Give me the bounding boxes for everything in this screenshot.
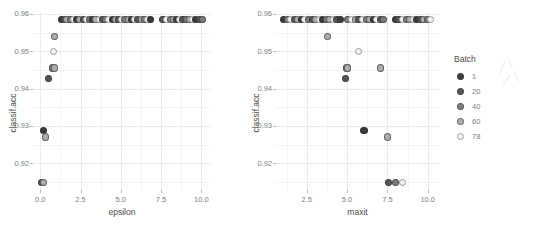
facet-maxit: classif.acc 0.920.930.940.950.96 2.55.07…	[243, 0, 443, 233]
legend-title: Batch	[454, 54, 532, 64]
y-tick-label: 0.95	[0, 47, 29, 56]
data-point	[199, 16, 206, 23]
y-tick-mark	[30, 126, 33, 127]
legend-key-dot-icon	[452, 73, 469, 80]
x-axis-title-left: epsilon	[33, 207, 211, 217]
data-point	[51, 33, 58, 40]
y-tick-mark	[30, 89, 33, 90]
gridline-minor-horizontal	[276, 107, 439, 108]
y-tick-label: 0.93	[242, 121, 272, 130]
x-tick-label: 2.5	[292, 195, 322, 204]
y-tick-mark	[273, 89, 276, 90]
gridline-major-horizontal	[33, 163, 211, 164]
y-tick-label: 0.96	[0, 9, 29, 18]
gridline-major-vertical	[81, 12, 82, 190]
y-axis-title-right: classif.acc	[245, 0, 261, 233]
y-tick-mark	[273, 163, 276, 164]
y-tick-mark	[30, 163, 33, 164]
gridline-major-vertical	[428, 12, 429, 190]
data-point	[344, 64, 351, 71]
legend-items: 120406078	[452, 69, 532, 144]
data-point	[324, 33, 331, 40]
y-tick-label: 0.94	[0, 84, 29, 93]
x-tick-mark	[307, 190, 308, 193]
gridline-major-horizontal	[276, 126, 439, 127]
data-point	[40, 179, 47, 186]
legend-item-60[interactable]: 60	[452, 114, 532, 129]
plot-panel-maxit	[276, 12, 439, 190]
data-point	[342, 75, 349, 82]
legend-batch: Batch 120406078	[452, 54, 532, 144]
x-tick-label: 0.0	[25, 195, 55, 204]
legend-item-1[interactable]: 1	[452, 69, 532, 84]
gridline-major-horizontal	[33, 14, 211, 15]
gridline-major-horizontal	[33, 51, 211, 52]
gridline-major-horizontal	[276, 163, 439, 164]
legend-key-dot-icon	[452, 88, 469, 95]
legend-label: 20	[472, 87, 480, 96]
y-tick-label: 0.96	[242, 9, 272, 18]
legend-key-dot-icon	[452, 103, 469, 110]
x-tick-mark	[201, 190, 202, 193]
legend-label: 78	[472, 132, 480, 141]
data-point	[50, 48, 57, 55]
x-tick-label: 10.0	[413, 195, 443, 204]
gridline-minor-horizontal	[276, 70, 439, 71]
legend-label: 40	[472, 102, 480, 111]
x-tick-label: 7.5	[372, 195, 402, 204]
x-tick-label: 5.0	[106, 195, 136, 204]
gridline-minor-horizontal	[276, 182, 439, 183]
x-tick-mark	[161, 190, 162, 193]
y-tick-mark	[273, 14, 276, 15]
data-point	[42, 133, 49, 140]
y-tick-label: 0.95	[242, 47, 272, 56]
y-tick-label: 0.93	[0, 121, 29, 130]
x-tick-mark	[40, 190, 41, 193]
legend-item-40[interactable]: 40	[452, 99, 532, 114]
gridline-major-vertical	[387, 12, 388, 190]
x-tick-label: 5.0	[332, 195, 362, 204]
data-point	[45, 75, 52, 82]
figure-root: classif.acc 0.920.930.940.950.96 0.02.55…	[0, 0, 533, 233]
gridline-major-horizontal	[276, 14, 439, 15]
data-point	[385, 179, 392, 186]
gridline-major-vertical	[347, 12, 348, 190]
y-tick-mark	[273, 126, 276, 127]
data-point	[427, 16, 434, 23]
gridline-major-vertical	[201, 12, 202, 190]
gridline-major-horizontal	[33, 126, 211, 127]
x-tick-mark	[428, 190, 429, 193]
y-tick-label: 0.94	[242, 84, 272, 93]
data-point	[147, 16, 154, 23]
y-axis-title-left: classif.acc	[2, 0, 18, 233]
x-tick-mark	[121, 190, 122, 193]
data-point	[380, 16, 387, 23]
plot-panel-epsilon	[33, 12, 211, 190]
gridline-major-vertical	[161, 12, 162, 190]
x-tick-mark	[81, 190, 82, 193]
y-tick-label: 0.92	[242, 159, 272, 168]
facet-epsilon: classif.acc 0.920.930.940.950.96 0.02.55…	[0, 0, 243, 233]
y-tick-mark	[30, 51, 33, 52]
data-point	[377, 64, 384, 71]
data-point	[337, 16, 344, 23]
legend-item-78[interactable]: 78	[452, 129, 532, 144]
x-tick-mark	[387, 190, 388, 193]
x-tick-label: 7.5	[146, 195, 176, 204]
legend-label: 60	[472, 117, 480, 126]
y-tick-label: 0.92	[0, 159, 29, 168]
data-point	[399, 179, 406, 186]
legend-item-20[interactable]: 20	[452, 84, 532, 99]
y-tick-mark	[30, 14, 33, 15]
gridline-major-horizontal	[33, 89, 211, 90]
x-axis-title-right: maxit	[276, 207, 439, 217]
x-tick-label: 10.0	[186, 195, 216, 204]
data-point	[360, 127, 367, 134]
gridline-major-vertical	[121, 12, 122, 190]
data-point	[392, 179, 399, 186]
legend-label: 1	[472, 72, 476, 81]
data-point	[384, 133, 391, 140]
gridline-minor-horizontal	[276, 145, 439, 146]
x-tick-label: 2.5	[66, 195, 96, 204]
legend-key-dot-icon	[452, 133, 469, 140]
